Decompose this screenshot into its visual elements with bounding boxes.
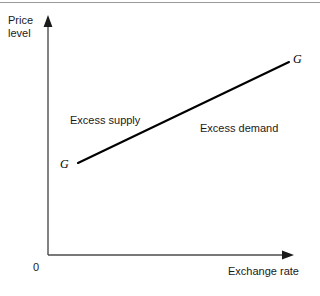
gg-curve-label-end: G xyxy=(293,52,302,67)
gg-curve xyxy=(78,62,289,163)
exchange-rate-price-level-diagram: Price level Exchange rate 0 Excess suppl… xyxy=(0,0,320,296)
x-axis-arrowhead xyxy=(282,251,294,260)
excess-supply-label: Excess supply xyxy=(70,114,140,126)
x-axis-title: Exchange rate xyxy=(228,265,299,278)
plot-area xyxy=(0,0,320,296)
excess-demand-label: Excess demand xyxy=(200,122,278,134)
origin-label: 0 xyxy=(33,261,39,273)
gg-curve-label-start: G xyxy=(60,157,69,172)
y-axis-title: Price level xyxy=(8,14,33,39)
y-axis-arrowhead xyxy=(44,15,53,27)
